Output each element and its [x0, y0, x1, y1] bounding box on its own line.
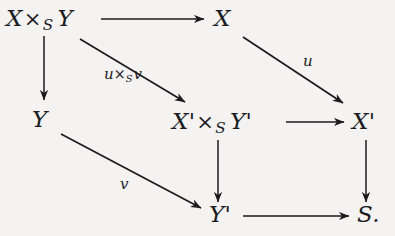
arrow-label-v: v: [120, 177, 128, 192]
node-x-times-s-y: X×SY: [6, 7, 73, 33]
commutative-diagram: X×SY X Y X'×SY' X' Y' S. u×Sv u v: [0, 0, 395, 236]
node-xprime-times-s-yprime-second: Y': [230, 108, 252, 134]
node-x-times-s-y-subscript: S: [43, 16, 55, 34]
node-xprime: X': [352, 110, 375, 133]
node-y-base: Y: [32, 106, 47, 132]
node-x-times-s-y-second: Y: [57, 5, 72, 31]
node-s: S.: [357, 203, 380, 226]
node-y: Y: [32, 108, 47, 131]
node-x-base: X: [214, 5, 231, 31]
node-xprime-times-s-yprime-base: X': [172, 108, 195, 134]
node-s-base: S.: [357, 201, 380, 227]
node-xprime-times-s-yprime-subscript: S: [215, 119, 227, 137]
times-operator-icon: ×: [114, 66, 126, 82]
arrow-label-u-text: u: [303, 52, 313, 70]
arrow-label-u-times-s-v-second: v: [133, 65, 141, 83]
node-yprime-base: Y': [209, 201, 231, 227]
node-xprime-base: X': [352, 108, 375, 134]
node-x-times-s-y-base: X: [6, 5, 23, 31]
arrow-label-u: u: [303, 54, 313, 69]
arrow-label-u-times-s-v: u×Sv: [104, 67, 142, 84]
times-operator-icon: ×: [23, 6, 43, 31]
arrow-diagonal-u: [243, 37, 343, 103]
arrow-label-v-text: v: [120, 175, 128, 193]
arrow-label-u-times-s-v-base: u: [104, 65, 114, 83]
node-xprime-times-s-yprime: X'×SY': [172, 110, 252, 136]
node-yprime: Y': [209, 203, 231, 226]
times-operator-icon: ×: [195, 109, 215, 134]
node-x: X: [214, 7, 231, 30]
arrow-diagonal-v: [61, 134, 201, 208]
